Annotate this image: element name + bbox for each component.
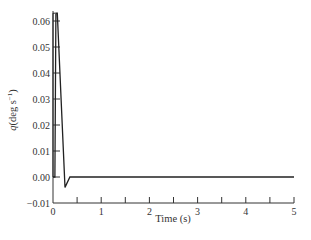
q-time-chart: 012345−0.010.000.010.020.030.040.050.06 …: [0, 0, 311, 240]
x-tick-label: 2: [147, 206, 152, 217]
y-axis-title: q(deg s−1): [6, 89, 19, 131]
y-tick-label: −0.01: [27, 198, 50, 209]
x-tick-label: 4: [243, 206, 248, 217]
y-tick-label: 0.04: [33, 68, 51, 79]
x-tick-label: 0: [51, 206, 56, 217]
y-tick-label: 0.02: [33, 120, 51, 131]
axes: 012345−0.010.000.010.020.030.040.050.06: [27, 11, 297, 217]
data-series: [53, 13, 294, 187]
y-tick-label: 0.01: [33, 146, 51, 157]
x-tick-label: 3: [195, 206, 200, 217]
y-tick-label: 0.05: [33, 42, 51, 53]
x-tick-label: 1: [99, 206, 104, 217]
series-line-q: [53, 13, 294, 187]
x-tick-label: 5: [292, 206, 297, 217]
x-axis-title: Time (s): [155, 213, 191, 225]
y-tick-label: 0.03: [33, 94, 51, 105]
y-tick-label: 0.06: [33, 16, 51, 27]
y-tick-label: 0.00: [33, 172, 51, 183]
